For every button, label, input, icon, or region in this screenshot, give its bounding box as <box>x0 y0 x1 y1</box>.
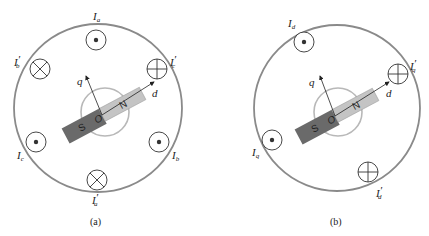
d-axis-label: d <box>152 87 158 99</box>
label-ib: Ib <box>171 149 180 163</box>
label-iq-prime: I′q <box>409 57 417 74</box>
figure-b: S O N d q Id I′q Iq I′d (b) <box>251 17 420 228</box>
q-axis-label: q <box>77 75 83 87</box>
caption-b: (b) <box>330 216 342 228</box>
label-id-prime: I′d <box>375 184 383 201</box>
label-id: Id <box>287 17 296 31</box>
conductor-iq-prime <box>388 64 408 84</box>
label-ib-prime: I′b <box>13 53 21 70</box>
label-ia-prime: I′a <box>91 191 99 208</box>
label-ic: Ic <box>16 149 25 163</box>
q-axis-label: q <box>309 76 315 88</box>
d-axis-arrow <box>102 82 154 115</box>
label-ia: Ia <box>92 10 101 24</box>
figure-a: S O N d q <box>13 10 182 228</box>
conductor-id-prime <box>358 162 378 182</box>
label-iq: Iq <box>251 146 260 160</box>
conductor-ib-prime <box>30 59 50 79</box>
conductor-ic <box>26 132 46 152</box>
magnet: S O N <box>62 87 148 143</box>
caption-a: (a) <box>90 216 101 228</box>
conductor-ia <box>86 30 106 50</box>
conductor-ib <box>149 132 169 152</box>
conductor-ia-prime <box>87 170 107 190</box>
motor-diagrams: S O N d q <box>0 0 429 236</box>
conductor-id <box>294 32 314 52</box>
conductor-ic-prime <box>147 59 167 79</box>
d-axis-label: d <box>386 87 392 99</box>
conductor-iq <box>262 130 282 150</box>
label-ic-prime: I′c <box>169 53 177 70</box>
q-axis-arrow <box>320 76 335 116</box>
